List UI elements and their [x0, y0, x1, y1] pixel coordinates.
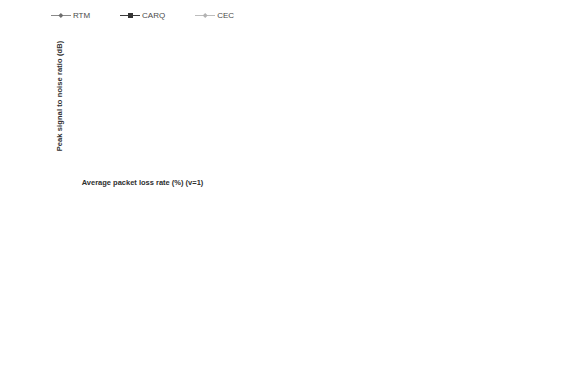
chart-panel-v4 [285, 198, 569, 392]
legend-item-carq[interactable]: CARQ [120, 11, 165, 20]
chart-legend: RTMCARQCEC [0, 11, 285, 20]
clipped-caption-text: · · · · · [6, 0, 29, 3]
chart-grid: RTMCARQCECPeak signal to noise ratio (dB… [0, 7, 569, 392]
legend-label: CEC [217, 11, 234, 20]
legend-marker-rtm-icon [51, 12, 71, 20]
legend-label: RTM [73, 11, 90, 20]
x-axis-label: Average packet loss rate (%) (v=1) [0, 178, 285, 187]
legend-label: CARQ [142, 11, 165, 20]
legend-item-cec[interactable]: CEC [195, 11, 234, 20]
chart-panel-v3 [0, 198, 285, 392]
chart-panel-v1: RTMCARQCECPeak signal to noise ratio (dB… [0, 7, 285, 198]
legend-item-rtm[interactable]: RTM [51, 11, 90, 20]
figure-four-panel-psnr-charts: · · · · · RTMCARQCECPeak signal to noise… [0, 0, 569, 392]
legend-marker-cec-icon [195, 12, 215, 20]
y-axis-label: Peak signal to noise ratio (dB) [55, 41, 64, 152]
legend-marker-carq-icon [120, 12, 140, 20]
chart-panel-v2 [285, 7, 569, 198]
